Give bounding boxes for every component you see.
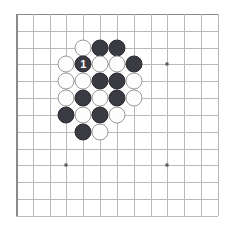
stone-b-c6r2[interactable] [108, 39, 125, 56]
goban-grid[interactable]: 1 [0, 0, 240, 234]
star-point-upper-right [166, 63, 169, 66]
move-number-label: 1 [80, 59, 86, 70]
stone-b-c4r7[interactable] [75, 123, 92, 140]
star-point-lower-left [65, 164, 68, 167]
grid-line-vertical-8 [151, 14, 152, 216]
stone-w-c4r6[interactable] [75, 106, 92, 123]
stone-b-c4r5[interactable] [75, 90, 92, 107]
stone-w-c3r3[interactable] [58, 56, 75, 73]
stone-w-c4r2[interactable] [75, 39, 92, 56]
stone-b-c7r3[interactable] [125, 56, 142, 73]
grid-line-vertical-12 [218, 14, 219, 216]
stone-b-c5r6[interactable] [92, 106, 109, 123]
stone-b-c5r2[interactable] [92, 39, 109, 56]
stone-w-c5r5[interactable] [92, 90, 109, 107]
grid-line-vertical-1 [33, 14, 34, 216]
grid-line-vertical-9 [167, 14, 168, 216]
grid-line-vertical-0 [16, 14, 18, 216]
stone-w-c3r5[interactable] [58, 90, 75, 107]
stone-w-c4r4[interactable] [75, 73, 92, 90]
stone-w-c7r4[interactable] [125, 73, 142, 90]
stone-b-c5r4[interactable] [92, 73, 109, 90]
stone-b-c6r5[interactable] [108, 90, 125, 107]
stone-w-c3r4[interactable] [58, 73, 75, 90]
grid-line-vertical-7 [134, 14, 135, 216]
stone-w-c5r3[interactable] [92, 56, 109, 73]
grid-line-vertical-11 [201, 14, 202, 216]
stone-b-c3r6[interactable] [58, 106, 75, 123]
stone-b-c4r3[interactable]: 1 [75, 56, 92, 73]
stone-w-c6r3[interactable] [108, 56, 125, 73]
stone-b-c6r4[interactable] [108, 73, 125, 90]
grid-line-vertical-2 [50, 14, 51, 216]
go-board-diagram: 1 [0, 0, 240, 234]
stone-w-c6r6[interactable] [108, 106, 125, 123]
grid-line-vertical-10 [184, 14, 185, 216]
stone-w-c7r5[interactable] [125, 90, 142, 107]
star-point-lower-right [166, 164, 169, 167]
grid-line-horizontal-12 [16, 216, 218, 217]
stone-w-c5r7[interactable] [92, 123, 109, 140]
